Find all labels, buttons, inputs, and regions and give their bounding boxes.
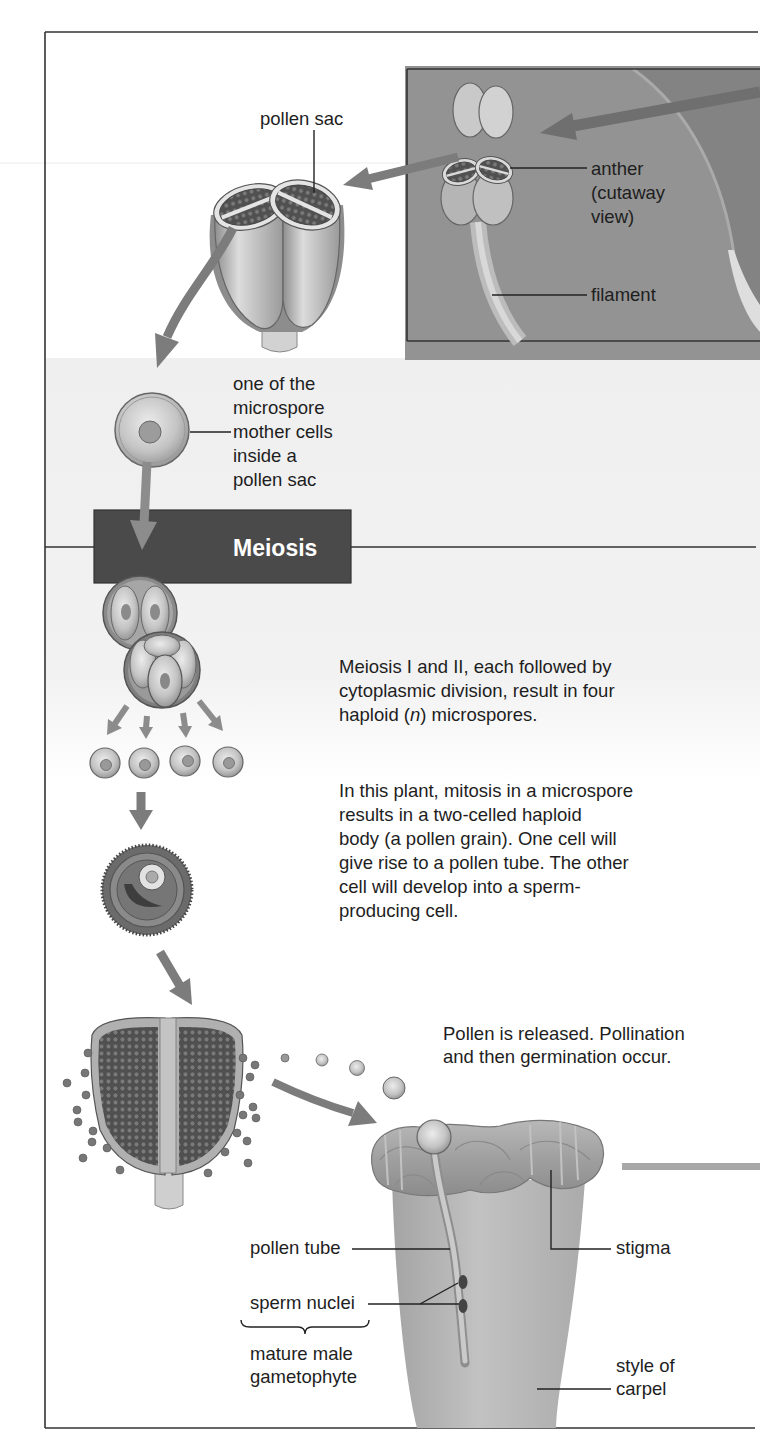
stigma <box>372 1120 604 1195</box>
inset-flower-closeup <box>405 66 760 360</box>
label-gametophyte-line1: mature male <box>250 1343 353 1364</box>
caption-meiosis-line3: haploid (n) microspores. <box>339 704 537 725</box>
label-mother-cell-line3: mother cells <box>233 421 333 442</box>
caption-mitosis-line3: body (a pollen grain). One cell will <box>339 828 617 849</box>
arrow-pollen-sac-to-mother-cell <box>155 228 233 368</box>
caption-meiosis-line1: Meiosis I and II, each followed by <box>339 656 612 677</box>
label-pollen-sac: pollen sac <box>260 108 343 129</box>
arrow-pollen-to-stigma <box>273 1082 377 1126</box>
anther-releasing-pollen <box>63 1018 260 1209</box>
label-anther-line2: (cutaway <box>591 182 666 203</box>
figure-canvas: Meiosis <box>0 0 760 1448</box>
gray-bar <box>622 1163 760 1170</box>
caption-mitosis-line4: give rise to a pollen tube. The other <box>339 852 629 873</box>
caption-meiosis-haploid-n: n <box>410 704 420 725</box>
label-style-line2: carpel <box>616 1378 666 1399</box>
microspore-mother-cell <box>115 393 189 467</box>
label-anther-line3: view) <box>591 206 634 227</box>
arrow-microspore-to-pollen-grain <box>129 792 153 830</box>
caption-mitosis-line5: cell will develop into a sperm- <box>339 876 581 897</box>
caption-pollination-line1: Pollen is released. Pollination <box>443 1023 685 1044</box>
caption-mitosis-line6: producing cell. <box>339 900 458 921</box>
label-mother-cell-line2: microspore <box>233 397 325 418</box>
caption-meiosis-line2: cytoplasmic division, result in four <box>339 680 615 701</box>
diagram-svg: Meiosis <box>0 0 760 1448</box>
meiosis-label: Meiosis <box>233 535 317 561</box>
caption-meiosis-line3-pre: haploid ( <box>339 704 411 725</box>
caption-mitosis-line1: In this plant, mitosis in a microspore <box>339 780 633 801</box>
label-pollen-tube: pollen tube <box>250 1237 341 1258</box>
pollen-grain-on-stigma <box>417 1120 451 1154</box>
caption-pollination-line2: and then germination occur. <box>443 1046 671 1067</box>
label-mother-cell-line4: inside a <box>233 445 297 466</box>
caption-meiosis-line3-post: ) microspores. <box>420 704 537 725</box>
pollen-grain <box>102 845 192 935</box>
caption-mitosis-line2: results in a two-celled haploid <box>339 804 582 825</box>
tetrad-cell <box>124 632 200 708</box>
gametophyte-brace <box>241 1320 369 1334</box>
label-stigma: stigma <box>616 1237 671 1258</box>
sperm-nucleus <box>459 1275 468 1289</box>
label-gametophyte-line2: gametophyte <box>250 1366 357 1387</box>
label-mother-cell-line5: pollen sac <box>233 469 316 490</box>
arrow-pollen-grain-to-anther <box>160 952 192 1005</box>
label-sperm-nuclei: sperm nuclei <box>250 1292 355 1313</box>
label-filament: filament <box>591 284 656 305</box>
pollen-sac-illustration <box>209 173 346 352</box>
label-style-line1: style of <box>616 1355 675 1376</box>
sperm-nucleus <box>459 1299 468 1313</box>
label-anther-line1: anther <box>591 158 643 179</box>
label-mother-cell-line1: one of the <box>233 373 315 394</box>
